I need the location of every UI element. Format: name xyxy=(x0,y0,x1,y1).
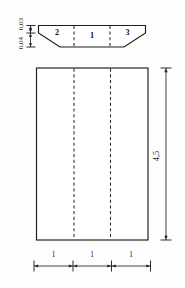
thickness-upper-label: 0,03 xyxy=(17,17,25,30)
width-segment-3-label: 1 xyxy=(129,250,133,259)
width-segment-1-label: 1 xyxy=(52,250,56,259)
thickness-lower-label: 0,04 xyxy=(17,36,25,49)
plan-view-outline xyxy=(37,68,149,240)
length-dimension-group: 4,5 xyxy=(152,68,171,240)
width-arrow-0-right xyxy=(34,264,38,267)
length-arrow-bottom xyxy=(164,236,167,240)
thickness-arrow-bottom xyxy=(29,43,32,46)
width-arrow-2-right xyxy=(112,264,116,267)
width-arrow-1-left xyxy=(69,264,73,267)
width-arrow-1-right xyxy=(73,264,77,267)
thickness-arrow-mid-up xyxy=(29,29,32,32)
width-dimension-chain: 1 1 1 xyxy=(34,250,151,271)
cross-section-region-1-label: 1 xyxy=(90,31,94,40)
length-arrow-top xyxy=(164,68,167,72)
cross-section-region-2-label: 2 xyxy=(55,28,59,37)
cross-section-region-3-label: 3 xyxy=(125,28,129,37)
width-segment-2-label: 1 xyxy=(90,250,94,259)
rectangle-plan-view xyxy=(37,68,149,240)
thickness-dimension-group: 0,03 0,04 xyxy=(17,17,36,49)
technical-drawing-canvas: 2 1 3 0,03 0,04 xyxy=(0,0,185,288)
width-arrow-3-left xyxy=(146,264,150,267)
drawing-figure: 2 1 3 0,03 0,04 xyxy=(0,0,185,288)
length-dimension-label: 4,5 xyxy=(152,151,161,161)
thickness-arrow-top xyxy=(29,26,32,29)
width-arrow-2-left xyxy=(107,264,111,267)
thickness-arrow-mid-down xyxy=(29,33,32,36)
trapezoid-cross-section: 2 1 3 xyxy=(39,26,146,48)
